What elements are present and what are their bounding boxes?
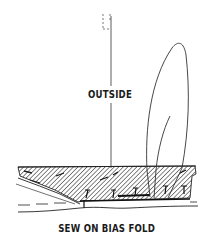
- sewing-diagram: OUTSIDE SEW ON BIAS FOLD: [0, 0, 210, 248]
- outside-label: OUTSIDE: [87, 88, 134, 101]
- diagram-illustration: [0, 0, 210, 248]
- hatched-fabric-band: [16, 166, 196, 204]
- lower-fabric-edge: [18, 202, 198, 212]
- dashed-top-bracket: [103, 14, 110, 29]
- caption-label: SEW ON BIAS FOLD: [58, 222, 152, 235]
